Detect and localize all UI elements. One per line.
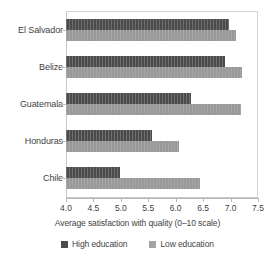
x-axis-tick-0 — [66, 198, 67, 202]
y-axis-label-3: Honduras — [1, 136, 63, 146]
bar-high-education-el-salvador — [66, 19, 229, 30]
legend-entry-high-education: High education — [61, 239, 127, 249]
x-axis-tick-label-2: 5.0 — [106, 203, 136, 213]
x-axis-tick-7 — [258, 198, 259, 202]
x-axis-tick-4 — [176, 198, 177, 202]
bar-low-education-chile — [66, 178, 200, 189]
x-axis-tick-6 — [231, 198, 232, 202]
bar-chart: El Salvador Belize Guatemala Honduras Ch… — [0, 0, 275, 257]
chart-legend: High education Low education — [0, 239, 275, 249]
x-axis-tick-label-7: 7.5 — [243, 203, 273, 213]
bars-layer — [66, 11, 258, 198]
legend-swatch-icon-low-education — [149, 241, 156, 248]
bar-high-education-belize — [66, 56, 225, 67]
bar-low-education-belize — [66, 67, 242, 78]
bar-high-education-chile — [66, 167, 120, 178]
x-axis-tick-label-6: 7.0 — [216, 203, 246, 213]
legend-swatch-icon-high-education — [61, 241, 68, 248]
y-axis-label-1: Belize — [1, 62, 63, 72]
legend-label-low-education: Low education — [160, 239, 214, 249]
x-axis-tick-1 — [93, 198, 94, 202]
x-axis-tick-label-3: 5.5 — [133, 203, 163, 213]
x-axis-title: Average satisfaction with quality (0–10 … — [0, 218, 275, 228]
bar-high-education-honduras — [66, 130, 152, 141]
x-axis-tick-label-0: 4.0 — [51, 203, 81, 213]
bar-high-education-guatemala — [66, 93, 191, 104]
legend-entry-low-education: Low education — [149, 239, 214, 249]
x-axis-tick-label-5: 6.5 — [188, 203, 218, 213]
x-axis-tick-5 — [203, 198, 204, 202]
bar-low-education-honduras — [66, 141, 179, 152]
bar-low-education-el-salvador — [66, 30, 236, 41]
legend-label-high-education: High education — [72, 239, 127, 249]
x-axis-tick-label-4: 6.0 — [161, 203, 191, 213]
x-axis-tick-3 — [148, 198, 149, 202]
y-axis-label-4: Chile — [1, 173, 63, 183]
y-axis-labels: El Salvador Belize Guatemala Honduras Ch… — [0, 11, 63, 198]
x-axis-line — [66, 198, 258, 199]
y-axis-label-0: El Salvador — [1, 25, 63, 35]
x-axis-tick-label-1: 4.5 — [78, 203, 108, 213]
x-axis-tick-2 — [121, 198, 122, 202]
y-axis-label-2: Guatemala — [1, 99, 63, 109]
bar-low-education-guatemala — [66, 104, 241, 115]
